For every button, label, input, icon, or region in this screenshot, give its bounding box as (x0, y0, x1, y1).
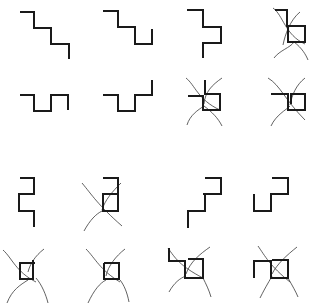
rectilinear-path (19, 178, 34, 227)
figure-r2c3 (186, 78, 222, 126)
rectilinear-path (169, 248, 203, 278)
rectilinear-path (188, 178, 221, 228)
figure-r3c4 (254, 178, 288, 211)
figure-grid (3, 8, 308, 303)
figure-r3c3 (188, 178, 221, 228)
figure-r2c4 (268, 78, 305, 126)
crossing-curve (290, 78, 305, 105)
crossing-curve (169, 276, 186, 292)
crossing-curve (260, 276, 272, 298)
crossing-curve (7, 280, 28, 303)
crossing-curve (187, 106, 204, 125)
crossing-curve (294, 42, 308, 60)
crossing-curve (88, 280, 106, 303)
crossing-curve (36, 278, 48, 303)
figure-r4c2 (86, 249, 129, 303)
crossing-curve (268, 78, 305, 120)
figure-r1c4 (273, 8, 308, 60)
knot-diagram-canvas (0, 0, 315, 308)
figure-r4c1 (3, 249, 48, 303)
figure-r3c2 (82, 178, 122, 231)
rectilinear-path (103, 178, 118, 211)
crossing-curve (120, 280, 129, 302)
rectilinear-path (103, 11, 152, 44)
figure-r1c1 (20, 12, 69, 59)
rectilinear-path (20, 95, 68, 111)
crossing-curve (274, 42, 294, 58)
figure-r4c3 (168, 247, 211, 297)
rectilinear-path (254, 260, 288, 278)
crossing-curve (258, 246, 290, 282)
rectilinear-path (103, 80, 152, 111)
rectilinear-path (20, 12, 69, 59)
crossing-curve (28, 249, 44, 272)
figure-r1c2 (103, 11, 152, 44)
rectilinear-path (271, 94, 305, 110)
figure-r4c4 (254, 246, 298, 298)
crossing-curve (203, 278, 211, 297)
rectilinear-path (187, 10, 221, 58)
figure-r3c1 (19, 178, 34, 227)
rectilinear-path (275, 10, 305, 42)
crossing-curve (283, 12, 300, 45)
crossing-curve (288, 278, 298, 297)
figure-r1c3 (187, 10, 221, 58)
rectilinear-path (20, 260, 35, 279)
rectilinear-path (188, 80, 220, 110)
figure-r2c2 (103, 80, 152, 111)
crossing-curve (84, 211, 102, 231)
figure-r2c1 (20, 95, 68, 111)
rectilinear-path (254, 178, 288, 211)
